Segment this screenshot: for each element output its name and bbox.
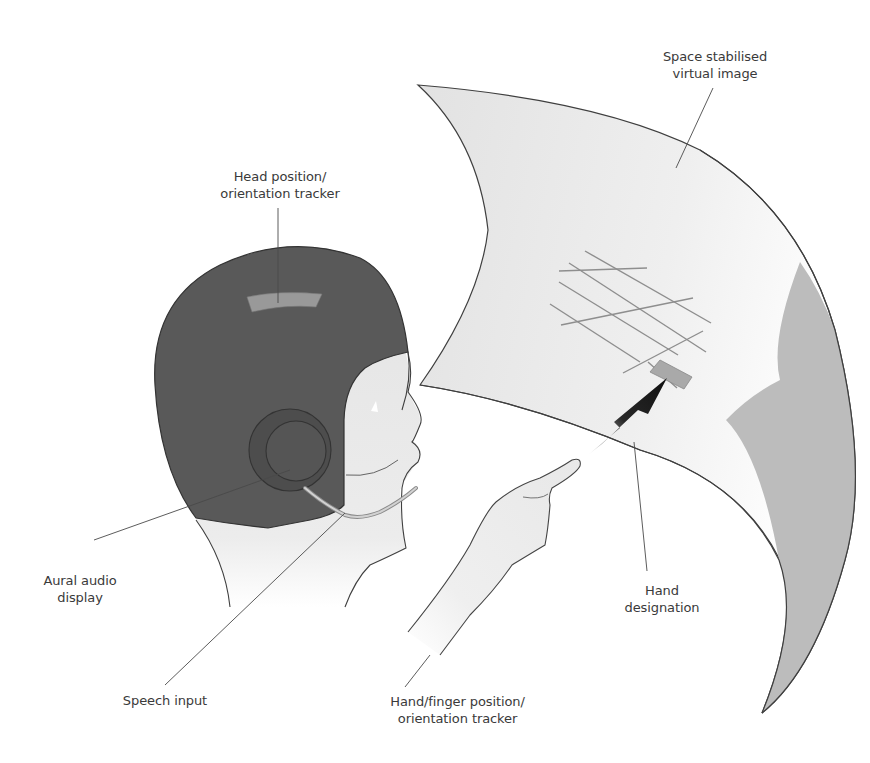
label-hand-tracker: Hand/finger position/ orientation tracke… [370, 693, 545, 727]
pilot-head [155, 247, 421, 607]
ear-cup-inner [266, 421, 326, 481]
label-aural-display-line1: Aural audio [30, 572, 130, 589]
label-virtual-image: Space stabilised virtual image [640, 48, 790, 82]
pointing-hand [408, 459, 580, 655]
label-virtual-image-line1: Space stabilised [640, 48, 790, 65]
label-speech-input: Speech input [100, 692, 230, 709]
virtual-cockpit-diagram [0, 0, 870, 763]
label-head-tracker-line2: orientation tracker [200, 185, 360, 202]
label-head-tracker: Head position/ orientation tracker [200, 168, 360, 202]
label-hand-tracker-line2: orientation tracker [370, 710, 545, 727]
label-virtual-image-line2: virtual image [640, 65, 790, 82]
virtual-image-screen [418, 85, 855, 713]
label-speech-input-line1: Speech input [100, 692, 230, 709]
label-hand-designation-line2: designation [612, 599, 712, 616]
label-head-tracker-line1: Head position/ [200, 168, 360, 185]
leader-hand-tracker [405, 655, 430, 687]
label-aural-display-line2: display [30, 589, 130, 606]
label-hand-designation: Hand designation [612, 582, 712, 616]
leader-hand-designation [634, 442, 647, 571]
label-aural-display: Aural audio display [30, 572, 130, 606]
label-hand-designation-line1: Hand [612, 582, 712, 599]
label-hand-tracker-line1: Hand/finger position/ [370, 693, 545, 710]
